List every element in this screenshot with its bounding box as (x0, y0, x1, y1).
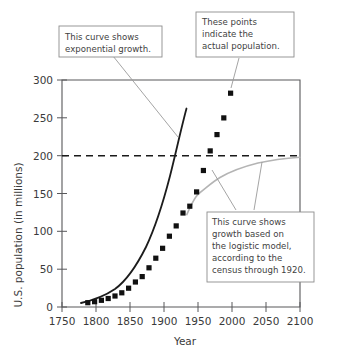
y-tick-300: 300 (33, 74, 53, 86)
x-tick-2100: 2100 (287, 315, 314, 327)
callout-exponential: This curve shows exponential growth. (59, 26, 162, 57)
y-tick-200: 200 (33, 150, 53, 162)
figure-container: 300 250 200 150 100 50 0 1750 1800 1850 … (0, 0, 339, 361)
callout-logistic-line-3: the logistic model, (212, 241, 292, 251)
x-tick-1800: 1800 (83, 315, 110, 327)
logistic-growth-curve (187, 157, 300, 214)
population-growth-chart: 300 250 200 150 100 50 0 1750 1800 1850 … (0, 0, 339, 361)
callout-logistic-line-2: growth based on (212, 229, 284, 239)
x-tick-1750: 1750 (49, 315, 76, 327)
data-point (92, 299, 97, 304)
y-tick-0: 0 (46, 301, 53, 313)
data-point (146, 265, 151, 270)
callout-logistic: This curve shows growth based on the log… (207, 212, 314, 282)
data-point (167, 234, 172, 239)
x-tick-1900: 1900 (151, 315, 178, 327)
x-tick-1850: 1850 (117, 315, 144, 327)
callout-logistic-line-1: This curve shows (211, 217, 286, 227)
x-tick-2000: 2000 (219, 315, 246, 327)
data-point (160, 246, 165, 251)
callout-datapoints-line-2: indicate the (202, 29, 253, 39)
data-point (112, 293, 117, 298)
data-point (106, 296, 111, 301)
data-point (208, 148, 213, 153)
callout-datapoints-line-1: These points (201, 17, 257, 27)
callout-datapoints: These points indicate the actual populat… (196, 12, 294, 57)
callout-exponential-line-1: This curve shows (64, 32, 139, 42)
x-axis-tick-labels: 1750 1800 1850 1900 1950 2000 2050 2100 (49, 315, 314, 327)
data-point (187, 204, 192, 209)
y-tick-250: 250 (33, 112, 53, 124)
data-point (180, 210, 185, 215)
data-point (194, 189, 199, 194)
data-point (174, 223, 179, 228)
data-point (119, 290, 124, 295)
callout-datapoints-line-3: actual population. (202, 41, 280, 51)
data-point (99, 298, 104, 303)
callout-exponential-line-2: exponential growth. (65, 44, 151, 54)
data-point (228, 91, 233, 96)
data-point (133, 279, 138, 284)
data-point (126, 286, 131, 291)
exponential-growth-curve (81, 109, 187, 304)
callout-logistic-line-5: census through 1920. (212, 265, 306, 275)
callout-leader-lines (113, 56, 262, 210)
y-tick-100: 100 (33, 225, 53, 237)
data-point (85, 300, 90, 305)
y-tick-150: 150 (33, 188, 53, 200)
y-tick-50: 50 (40, 263, 53, 275)
data-point (221, 115, 226, 120)
y-axis-tick-labels: 300 250 200 150 100 50 0 (33, 74, 53, 313)
x-axis-title: Year (173, 335, 197, 347)
data-point (140, 274, 145, 279)
y-axis-title: U.S. population (in millions) (12, 162, 24, 307)
x-tick-2050: 2050 (253, 315, 280, 327)
callout-logistic-line-4: according to the (212, 253, 282, 263)
data-point (153, 256, 158, 261)
data-point (214, 132, 219, 137)
data-point (201, 168, 206, 173)
x-tick-1950: 1950 (185, 315, 212, 327)
